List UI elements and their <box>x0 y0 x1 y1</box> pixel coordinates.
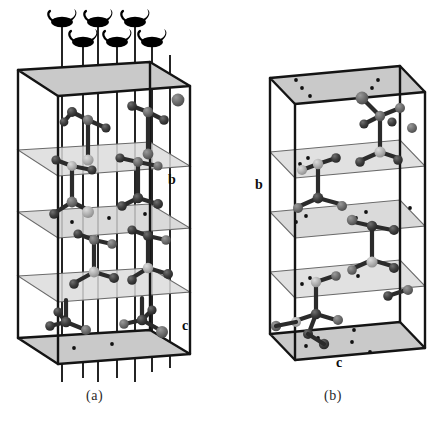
atom-sphere <box>133 193 143 203</box>
inversion-center-dot <box>408 206 412 210</box>
screw-axis-arrow-icon <box>48 9 76 27</box>
unit-cell-top-face-a <box>18 62 190 96</box>
atom-sphere <box>109 273 119 283</box>
axis-label-c-panel-b: c <box>336 355 342 371</box>
atom-sphere <box>389 225 399 235</box>
atom-sphere <box>355 157 365 167</box>
atom-sphere <box>89 235 99 245</box>
unit-cell-bottom-face-b <box>270 322 425 360</box>
axis-label-b-panel-b: b <box>255 177 263 193</box>
atom-sphere <box>333 315 343 325</box>
molecule-cluster <box>124 298 160 330</box>
atom-sphere <box>119 319 129 329</box>
atom-sphere <box>127 101 137 111</box>
atom-sphere <box>89 267 100 278</box>
atom-sphere <box>159 115 169 125</box>
atom-sphere <box>82 206 94 218</box>
atom-sphere <box>81 325 91 335</box>
atom-sphere <box>313 193 324 204</box>
panel-a <box>18 9 190 382</box>
axis-label-b-panel-a: b <box>168 172 176 188</box>
atom-sphere <box>366 256 377 267</box>
atom-sphere <box>293 203 303 213</box>
screw-axis-arrow-icon <box>69 29 97 47</box>
atom-sphere <box>297 165 307 175</box>
inversion-center-dot <box>300 86 304 90</box>
atom-sphere <box>67 161 77 171</box>
inversion-center-dot <box>107 216 111 220</box>
panel-caption-a: (a) <box>86 388 103 404</box>
inversion-center-dot <box>376 78 380 82</box>
screw-axis-arrow-icon <box>84 9 112 27</box>
atom-sphere <box>69 279 79 289</box>
atom-sphere <box>133 157 143 167</box>
panel-b <box>270 66 425 360</box>
atom-sphere <box>331 153 341 163</box>
atom-sphere <box>374 146 385 157</box>
inversion-center-dot <box>356 274 360 278</box>
inversion-center-dot <box>350 340 354 344</box>
atom-sphere <box>49 209 59 219</box>
atom-sphere <box>60 118 69 127</box>
inversion-center-dot <box>364 210 368 214</box>
atom-sphere <box>403 285 413 295</box>
atom-sphere <box>127 275 137 285</box>
atom-sphere <box>387 117 396 126</box>
inversion-center-dot <box>300 282 304 286</box>
atom-sphere <box>163 269 173 279</box>
atom-sphere <box>367 221 377 231</box>
panel-caption-b: (b) <box>324 388 342 404</box>
atom-sphere <box>67 107 77 117</box>
inversion-center-dot <box>110 342 114 346</box>
atom-sphere <box>313 159 323 169</box>
atom-sphere <box>347 215 357 225</box>
atom-sphere <box>73 229 82 238</box>
atom-sphere <box>153 161 162 170</box>
atom-sphere <box>143 107 153 117</box>
atom-sphere <box>331 271 341 281</box>
atom-sphere <box>337 201 347 211</box>
atom-sphere <box>127 225 136 234</box>
inversion-center-dot <box>304 214 308 218</box>
atom-sphere <box>143 149 154 160</box>
atom-sphere <box>153 199 163 209</box>
inversion-center-dot <box>143 212 147 216</box>
inversion-center-dot <box>308 276 312 280</box>
atom-sphere <box>375 111 385 121</box>
atom-sphere <box>117 201 127 211</box>
inversion-center-dot <box>368 350 372 354</box>
inversion-center-dot <box>304 344 308 348</box>
atom-sphere <box>51 155 60 164</box>
atom-sphere <box>101 123 110 132</box>
atom-sphere <box>383 291 393 301</box>
atom-sphere <box>161 235 171 245</box>
inversion-center-dot <box>370 86 374 90</box>
figure-root: b c b c (a) (b) <box>0 0 437 422</box>
atom-sphere <box>359 119 368 128</box>
atom-sphere <box>107 239 117 249</box>
atom-sphere <box>61 317 71 327</box>
layer-plane-a-3 <box>18 204 190 238</box>
atom-sphere <box>172 94 185 107</box>
atom-sphere <box>389 263 399 273</box>
atom-sphere <box>347 265 357 275</box>
atom-sphere <box>395 103 405 113</box>
atom-sphere <box>147 305 156 314</box>
atom-sphere <box>311 277 321 287</box>
inversion-center-dot <box>352 328 356 332</box>
inversion-center-dot <box>72 346 76 350</box>
atom-sphere <box>115 153 124 162</box>
screw-axis-arrow-icon <box>103 29 131 47</box>
inversion-center-dot <box>70 220 74 224</box>
atom-sphere <box>82 154 93 165</box>
layer-plane-a-2 <box>18 142 190 176</box>
atom-sphere <box>143 263 153 273</box>
atom-sphere <box>67 197 78 208</box>
screw-axis-arrow-icon <box>121 9 149 27</box>
unit-cell-top-face-b <box>270 66 425 104</box>
atom-sphere <box>45 321 55 331</box>
crystal-structure-figure <box>0 0 437 422</box>
screw-axis-arrowheads-a <box>48 9 166 47</box>
inversion-center-dot <box>294 78 298 82</box>
atom-sphere <box>143 231 153 241</box>
